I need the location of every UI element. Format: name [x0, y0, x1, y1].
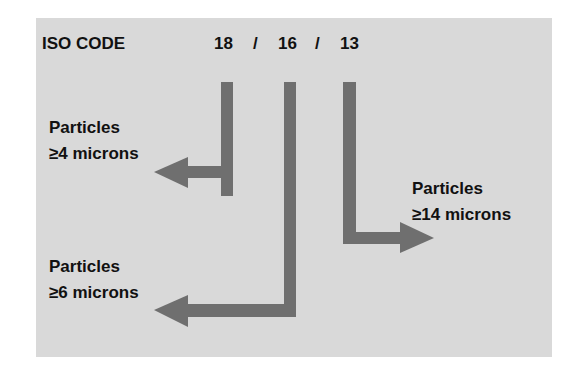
- label-line: ≥14 microns: [412, 202, 511, 228]
- label-4-microns: Particles ≥4 microns: [49, 115, 139, 167]
- label-line: ≥4 microns: [49, 141, 139, 167]
- label-line: Particles: [412, 176, 511, 202]
- label-14-microns: Particles ≥14 microns: [412, 176, 511, 228]
- label-line: Particles: [49, 254, 139, 280]
- arrow-left-icon: [154, 82, 233, 196]
- label-line: ≥6 microns: [49, 280, 139, 306]
- label-6-microns: Particles ≥6 microns: [49, 254, 139, 306]
- label-line: Particles: [49, 115, 139, 141]
- iso-code-diagram: ISO CODE 18 / 16 / 13 Particles ≥4 micro…: [36, 18, 552, 357]
